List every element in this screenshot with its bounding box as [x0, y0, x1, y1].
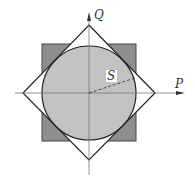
pq-capability-diagram: S P Q — [0, 0, 195, 181]
radius-label: S — [107, 69, 115, 83]
q-axis-arrow-icon — [87, 12, 91, 21]
p-axis-label: P — [174, 77, 184, 91]
q-axis-label: Q — [94, 8, 104, 22]
p-axis-arrow-icon — [176, 91, 185, 95]
